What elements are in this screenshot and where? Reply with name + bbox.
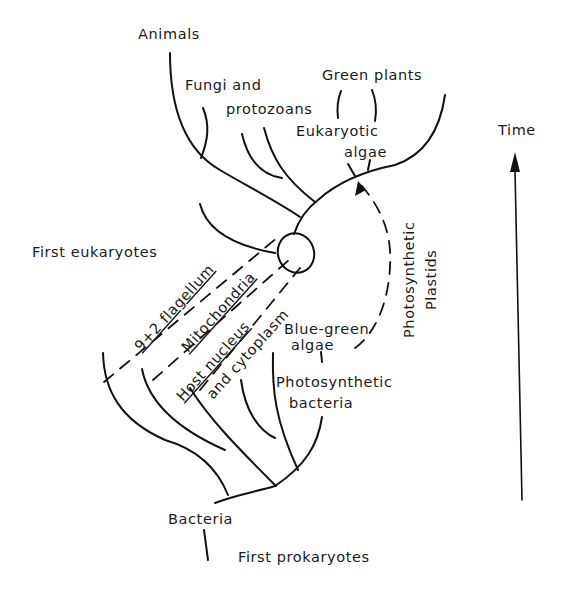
- label-eukaryotic-algae-line1: Eukaryotic: [296, 123, 378, 139]
- green-plants-mark-right: [372, 90, 376, 121]
- label-fungi-line2: protozoans: [226, 101, 312, 117]
- protozoan-branch-left: [242, 134, 282, 178]
- evolution-tree-diagram: Time Animals Fungi and protozoans Green …: [0, 0, 572, 592]
- time-arrowhead-icon: [510, 152, 520, 172]
- label-first-prokaryotes: First prokaryotes: [238, 549, 370, 565]
- blue-green-lineage: [273, 353, 298, 470]
- protozoan-branch-right: [264, 128, 315, 202]
- label-first-eukaryotes: First eukaryotes: [32, 244, 157, 260]
- green-plants-mark-left: [337, 91, 341, 118]
- label-photosynthetic-plastids-line2: Plastids: [423, 250, 439, 311]
- label-fungi-line1: Fungi and: [185, 77, 261, 93]
- label-bacteria: Bacteria: [168, 511, 233, 527]
- label-green-plants: Green plants: [322, 67, 422, 83]
- early-eukaryote-branch: [200, 204, 275, 253]
- label-blue-green-line1: Blue-green: [284, 321, 369, 337]
- label-photosynthetic-bacteria-line2: bacteria: [289, 395, 353, 411]
- label-animals: Animals: [138, 26, 200, 42]
- time-axis-line: [515, 170, 522, 500]
- blue-green-connector: [321, 352, 322, 362]
- label-photosynthetic-plastids-line1: Photosynthetic: [401, 221, 417, 338]
- time-axis: Time: [497, 122, 536, 500]
- label-eukaryotic-algae-line2: algae: [344, 144, 387, 160]
- time-axis-label: Time: [497, 122, 536, 138]
- plastids-arrowhead-icon: [355, 181, 366, 196]
- fungi-side-branch: [201, 108, 207, 158]
- label-photosynthetic-bacteria-line1: Photosynthetic: [276, 374, 393, 390]
- label-flagellum: 9+2 flagellum: [131, 261, 217, 354]
- photosynthetic-bacteria-branch: [215, 417, 322, 503]
- bacteria-branch-mid: [190, 388, 276, 486]
- label-blue-green-line2: algae: [291, 337, 334, 353]
- bacteria-branch-mid-right: [241, 380, 275, 438]
- first-prokaryote-stem: [204, 530, 208, 560]
- algae-twig-2: [368, 160, 370, 170]
- first-eukaryote-cell: [272, 228, 320, 278]
- algae-twig-1: [348, 164, 355, 176]
